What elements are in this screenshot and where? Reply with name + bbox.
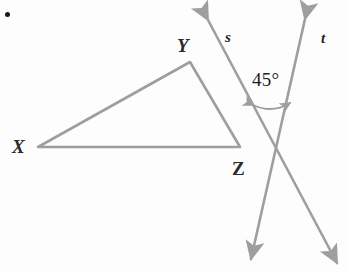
angle-measure-label: 45° [252, 70, 280, 89]
triangle-XYZ-outline [38, 62, 240, 147]
vertex-label-y: Y [177, 36, 189, 55]
ray-label-s: s [225, 30, 231, 45]
triangle-path [38, 62, 240, 147]
ray-s [208, 20, 337, 263]
vertex-label-x: X [12, 137, 25, 156]
ray-t-line [251, 19, 305, 259]
ray-s-line [208, 20, 337, 263]
geometry-figure: X Y Z s t 45° [0, 0, 348, 272]
ray-label-t: t [321, 31, 325, 46]
ray-t [251, 19, 305, 259]
vertex-label-z: Z [232, 159, 245, 178]
geometry-canvas [0, 0, 348, 272]
